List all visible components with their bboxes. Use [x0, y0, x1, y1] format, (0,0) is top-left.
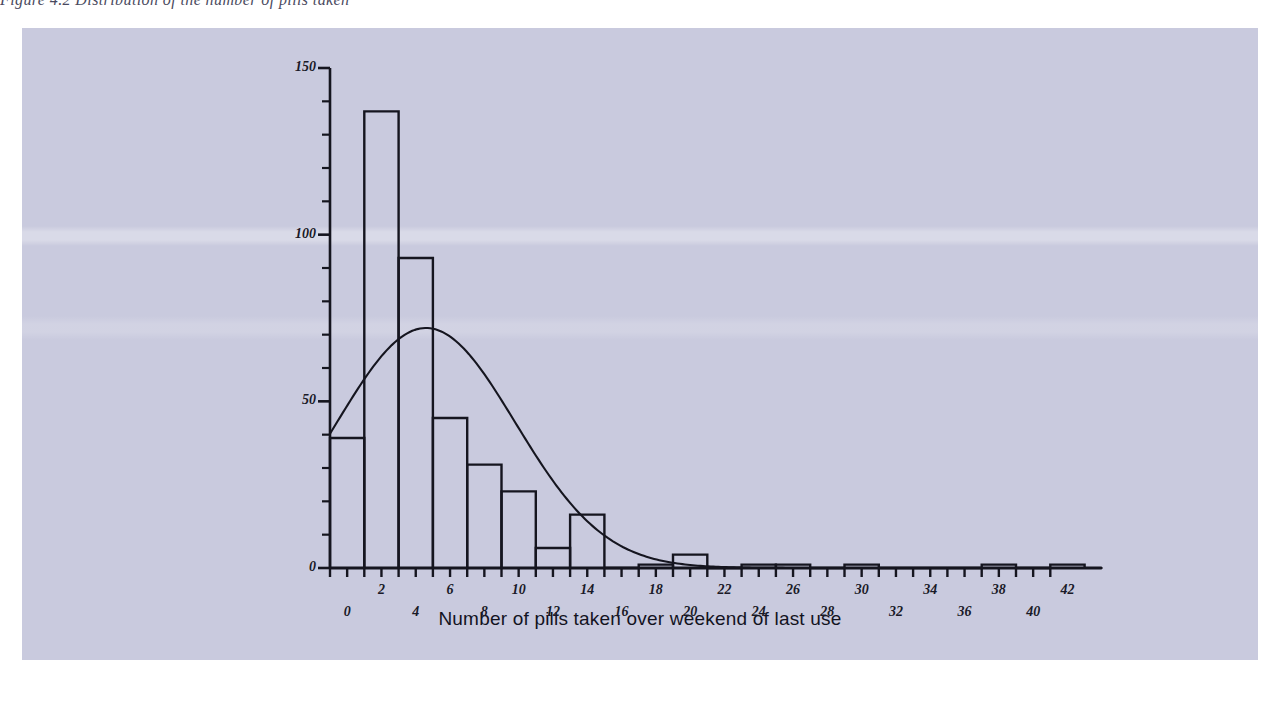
x-tick-label: 10	[493, 582, 545, 598]
figure-caption-partial: Figure 4.2 Distribution of the number of…	[0, 0, 1281, 13]
x-tick-label: 34	[904, 582, 956, 598]
x-tick-label: 30	[836, 582, 888, 598]
x-tick-label: 24	[733, 604, 785, 620]
x-tick-label: 26	[767, 582, 819, 598]
x-tick-label: 32	[870, 604, 922, 620]
x-tick-label: 16	[596, 604, 648, 620]
y-tick-label: 0	[262, 559, 316, 575]
x-tick-label: 0	[321, 604, 373, 620]
bars-group	[330, 111, 1085, 568]
histogram-bar	[364, 111, 398, 568]
histogram-bar	[502, 491, 536, 568]
x-tick-label: 42	[1041, 582, 1093, 598]
x-tick-label: 4	[390, 604, 442, 620]
histogram-bar	[467, 465, 501, 568]
x-tick-label: 22	[698, 582, 750, 598]
y-tick-label: 100	[262, 226, 316, 242]
histogram-plot	[22, 28, 1258, 660]
histogram-bar	[399, 258, 433, 568]
x-tick-label: 38	[973, 582, 1025, 598]
x-tick-label: 20	[664, 604, 716, 620]
x-tick-label: 6	[424, 582, 476, 598]
histogram-bar	[330, 438, 364, 568]
x-tick-label: 36	[939, 604, 991, 620]
normal-curve	[330, 328, 1102, 568]
x-tick-label: 12	[527, 604, 579, 620]
y-tick-label: 50	[262, 392, 316, 408]
histogram-bar	[570, 515, 604, 568]
y-tick-label: 150	[262, 59, 316, 75]
x-tick-label: 28	[801, 604, 853, 620]
x-tick-label: 18	[630, 582, 682, 598]
x-tick-label: 40	[1007, 604, 1059, 620]
chart-panel: Number of pills taken over weekend of la…	[22, 28, 1258, 660]
histogram-bar	[433, 418, 467, 568]
x-tick-label: 8	[458, 604, 510, 620]
histogram-bar	[536, 548, 570, 568]
x-tick-label: 14	[561, 582, 613, 598]
x-tick-label: 2	[355, 582, 407, 598]
